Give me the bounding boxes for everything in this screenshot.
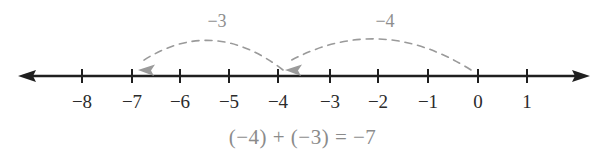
tick-label: 1 <box>507 92 547 111</box>
jump-arrowhead <box>138 65 155 77</box>
tick-label: −4 <box>258 92 298 111</box>
tick-label: 0 <box>458 92 498 111</box>
jump-label: −4 <box>360 12 410 30</box>
jump-arc-group <box>138 39 471 76</box>
jump-label: −3 <box>192 12 242 30</box>
number-line-figure: −8−7−6−5−4−3−2−101 −4−3 (−4) + (−3) = −7 <box>0 0 605 158</box>
jump-arc <box>288 39 471 70</box>
tick-label: −3 <box>310 92 350 111</box>
tick-label: −2 <box>358 92 398 111</box>
jump-arc <box>141 40 283 70</box>
tick-label: −5 <box>209 92 249 111</box>
jump-arrowhead <box>285 65 302 77</box>
equation-caption: (−4) + (−3) = −7 <box>0 125 605 150</box>
tick-label: −6 <box>160 92 200 111</box>
tick-label: −8 <box>62 92 102 111</box>
tick-label: −7 <box>112 92 152 111</box>
tick-label: −1 <box>408 92 448 111</box>
axis-group <box>18 70 590 82</box>
